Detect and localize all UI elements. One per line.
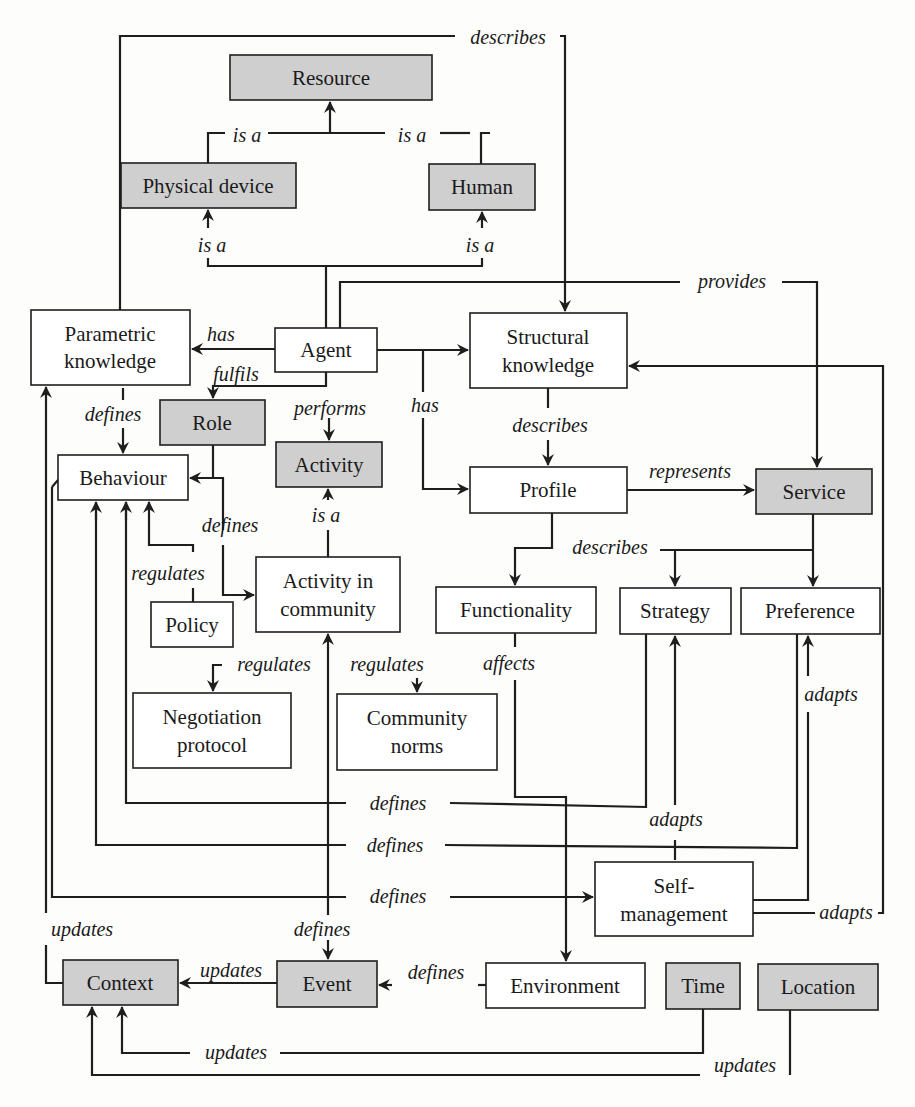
edge-self-adapts-preference xyxy=(753,712,808,900)
node-label: Resource xyxy=(292,66,370,90)
node-event: Event xyxy=(277,961,377,1007)
node-label: Policy xyxy=(165,613,219,637)
label-defines: defines xyxy=(294,918,351,941)
node-resource: Resource xyxy=(230,55,432,100)
label-is-a: is a xyxy=(233,124,261,146)
label-fulfils: fulfils xyxy=(213,363,259,386)
edge-time-updates-context xyxy=(280,1009,703,1053)
node-label-line1: Community xyxy=(367,706,468,730)
edge-functionality-affects-2 xyxy=(515,680,566,961)
node-label: Event xyxy=(303,972,352,996)
node-parametric-knowledge: Parametric knowledge xyxy=(31,310,190,385)
edge-time-updates-context-2 xyxy=(122,1007,190,1053)
edge-location-updates-context-2 xyxy=(92,1007,700,1075)
label-defines: defines xyxy=(370,885,427,908)
node-functionality: Functionality xyxy=(436,587,596,633)
node-context: Context xyxy=(63,960,178,1005)
edge-role-defines-behaviour xyxy=(190,445,213,478)
node-physical-device: Physical device xyxy=(121,163,296,208)
edge-parametric-describes-structural-2 xyxy=(560,36,565,311)
label-adapts: adapts xyxy=(649,808,703,831)
label-affects: affects xyxy=(483,652,535,675)
node-preference: Preference xyxy=(741,588,880,634)
node-label: Time xyxy=(681,974,725,998)
label-defines: defines xyxy=(202,514,259,537)
label-describes: describes xyxy=(512,414,588,436)
node-label: Environment xyxy=(510,974,620,998)
label-updates: updates xyxy=(714,1054,776,1077)
node-label-line2: management xyxy=(620,902,727,926)
label-describes: describes xyxy=(470,26,546,48)
edge-human-isa-resource xyxy=(481,133,490,164)
node-policy: Policy xyxy=(151,602,233,647)
node-label: Profile xyxy=(519,478,576,502)
node-activity: Activity xyxy=(276,442,382,487)
node-label: Role xyxy=(192,411,232,435)
label-defines: defines xyxy=(370,792,427,815)
node-label: Strategy xyxy=(640,599,710,623)
label-is-a: is a xyxy=(312,504,340,526)
node-environment: Environment xyxy=(486,963,645,1008)
node-label: Activity xyxy=(295,453,364,477)
node-profile: Profile xyxy=(470,467,627,513)
edge-role-defines-aic-2 xyxy=(223,545,254,595)
node-time: Time xyxy=(666,963,740,1009)
node-activity-in-community: Activity in community xyxy=(256,557,400,632)
node-label: Preference xyxy=(765,599,855,623)
label-defines: defines xyxy=(85,403,142,426)
label-defines: defines xyxy=(367,834,424,857)
node-label-line2: norms xyxy=(391,734,444,758)
node-behaviour: Behaviour xyxy=(58,455,188,500)
edge-agent-has-profile-2 xyxy=(423,418,468,489)
label-is-a: is a xyxy=(198,234,226,256)
node-human: Human xyxy=(429,164,535,210)
label-performs: performs xyxy=(292,397,366,420)
node-structural-knowledge: Structural knowledge xyxy=(470,313,627,388)
edge-context-updates-parametric-2 xyxy=(46,945,63,983)
label-is-a: is a xyxy=(398,124,426,146)
node-label: Location xyxy=(781,975,856,999)
edge-agent-isa-left xyxy=(208,258,326,266)
label-adapts: adapts xyxy=(819,901,873,924)
edge-aic-regulates-neg xyxy=(213,665,222,691)
node-label-line1: Parametric xyxy=(65,322,156,346)
label-provides: provides xyxy=(696,270,766,293)
node-label: Agent xyxy=(300,338,351,362)
label-adapts: adapts xyxy=(804,683,858,706)
label-describes: describes xyxy=(572,536,648,558)
edge-behaviour-side xyxy=(52,480,58,487)
edge-profile-describes xyxy=(515,513,552,585)
label-regulates: regulates xyxy=(350,653,424,676)
node-label-line1: Negotiation xyxy=(162,705,262,729)
label-is-a: is a xyxy=(466,234,494,256)
node-label-line1: Activity in xyxy=(283,569,374,593)
node-agent: Agent xyxy=(275,328,377,372)
edge-self-adapts-structural-2 xyxy=(629,366,883,913)
edge-physical-isa-resource xyxy=(208,133,225,163)
edge-policy-regulates-2 xyxy=(149,502,193,552)
node-negotiation-protocol: Negotiation protocol xyxy=(133,693,291,768)
label-updates: updates xyxy=(51,918,113,941)
label-has: has xyxy=(411,394,439,416)
label-updates: updates xyxy=(200,959,262,982)
label-updates: updates xyxy=(205,1041,267,1064)
node-label: Context xyxy=(87,971,154,995)
node-label: Behaviour xyxy=(79,466,166,490)
label-regulates: regulates xyxy=(131,562,205,585)
node-label: Service xyxy=(783,480,846,504)
node-community-norms: Community norms xyxy=(337,694,497,770)
node-service: Service xyxy=(756,469,872,514)
node-label: Functionality xyxy=(460,598,572,622)
node-self-management: Self- management xyxy=(595,862,753,936)
ontology-diagram: describes is a is a is a is a provides h… xyxy=(0,0,915,1107)
node-label-line1: Structural xyxy=(507,325,590,349)
node-label-line2: knowledge xyxy=(64,349,156,373)
node-label-line2: knowledge xyxy=(502,353,594,377)
edge-agent-isa xyxy=(326,258,482,328)
node-label-line1: Self- xyxy=(654,874,695,898)
node-label-line2: protocol xyxy=(177,733,247,757)
nodes: Resource Physical device Human Parametri… xyxy=(31,55,880,1010)
node-strategy: Strategy xyxy=(620,588,731,634)
node-label: Human xyxy=(451,175,513,199)
node-role: Role xyxy=(160,400,265,445)
